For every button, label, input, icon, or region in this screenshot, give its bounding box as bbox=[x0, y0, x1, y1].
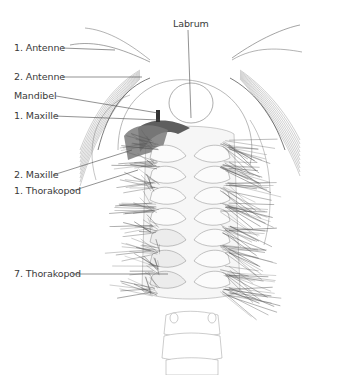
label-antenne-2: 2. Antenne bbox=[14, 71, 65, 82]
label-thorakopod-1: 1. Thorakopod bbox=[14, 185, 81, 196]
antenne-2-left-seta bbox=[80, 76, 140, 174]
antenne-2-right-seta bbox=[240, 70, 300, 140]
leader-labrum bbox=[188, 30, 191, 118]
seta-left bbox=[117, 292, 151, 298]
leader-maxille-2 bbox=[53, 150, 132, 175]
pleopod-bud-left bbox=[170, 313, 178, 323]
label-thorakopod-7: 7. Thorakopod bbox=[14, 268, 81, 279]
label-maxille-1: 1. Maxille bbox=[14, 110, 59, 121]
diagram: Labrum 1. Antenne 2. Antenne Mandibel 1.… bbox=[0, 0, 338, 375]
label-labrum: Labrum bbox=[173, 18, 209, 29]
leader-antenne-1 bbox=[62, 48, 115, 50]
seta-right bbox=[229, 139, 277, 140]
pleopod-bud-right bbox=[208, 313, 216, 323]
abdomen-segment-2 bbox=[162, 333, 222, 361]
seta-right bbox=[229, 184, 281, 197]
label-maxille-2: 2. Maxille bbox=[14, 169, 59, 180]
label-mandibel: Mandibel bbox=[14, 90, 56, 101]
antenne-1-right bbox=[232, 25, 300, 58]
figure-caption-faint bbox=[14, 364, 334, 370]
antenne-1-left bbox=[70, 44, 150, 62]
label-antenne-1: 1. Antenne bbox=[14, 42, 65, 53]
seta-right bbox=[225, 289, 260, 303]
antenne-2-right-seta bbox=[240, 71, 300, 144]
